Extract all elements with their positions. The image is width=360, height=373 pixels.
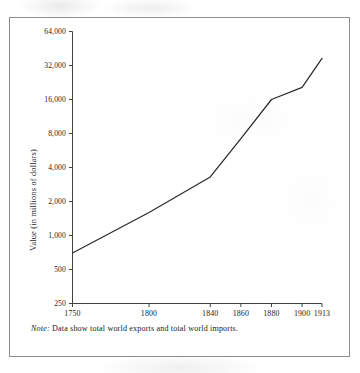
x-tick-label: 1860 bbox=[233, 309, 249, 318]
x-axis: 1750180018401860188019001913 bbox=[64, 304, 330, 319]
series-line bbox=[73, 58, 323, 253]
y-tick-label: 2,000 bbox=[48, 197, 66, 206]
y-tick-label: 32,000 bbox=[44, 61, 66, 70]
data-series bbox=[73, 58, 323, 253]
x-tick-label: 1913 bbox=[314, 309, 330, 318]
note-label: Note: bbox=[31, 324, 50, 333]
y-tick-label: 8,000 bbox=[48, 129, 66, 138]
y-tick-label: 4,000 bbox=[48, 163, 66, 172]
line-chart: 64,00032,00016,0008,0004,0002,0001,00050… bbox=[0, 0, 360, 373]
x-tick-label: 1750 bbox=[64, 309, 80, 318]
y-axis-title: Value (in millions of dollars) bbox=[29, 149, 38, 251]
y-axis: 64,00032,00016,0008,0004,0002,0001,00050… bbox=[44, 27, 72, 308]
x-tick-label: 1840 bbox=[202, 309, 218, 318]
y-tick-label: 64,000 bbox=[44, 27, 66, 36]
y-tick-label: 250 bbox=[54, 299, 66, 308]
note-text: Data show total world exports and total … bbox=[50, 324, 238, 333]
y-tick-label: 500 bbox=[54, 265, 66, 274]
x-tick-label: 1800 bbox=[141, 309, 157, 318]
y-tick-label: 16,000 bbox=[44, 95, 66, 104]
x-tick-label: 1900 bbox=[294, 309, 310, 318]
figure-note: Note: Data show total world exports and … bbox=[31, 323, 331, 334]
x-tick-label: 1880 bbox=[263, 309, 279, 318]
y-tick-label: 1,000 bbox=[48, 231, 66, 240]
